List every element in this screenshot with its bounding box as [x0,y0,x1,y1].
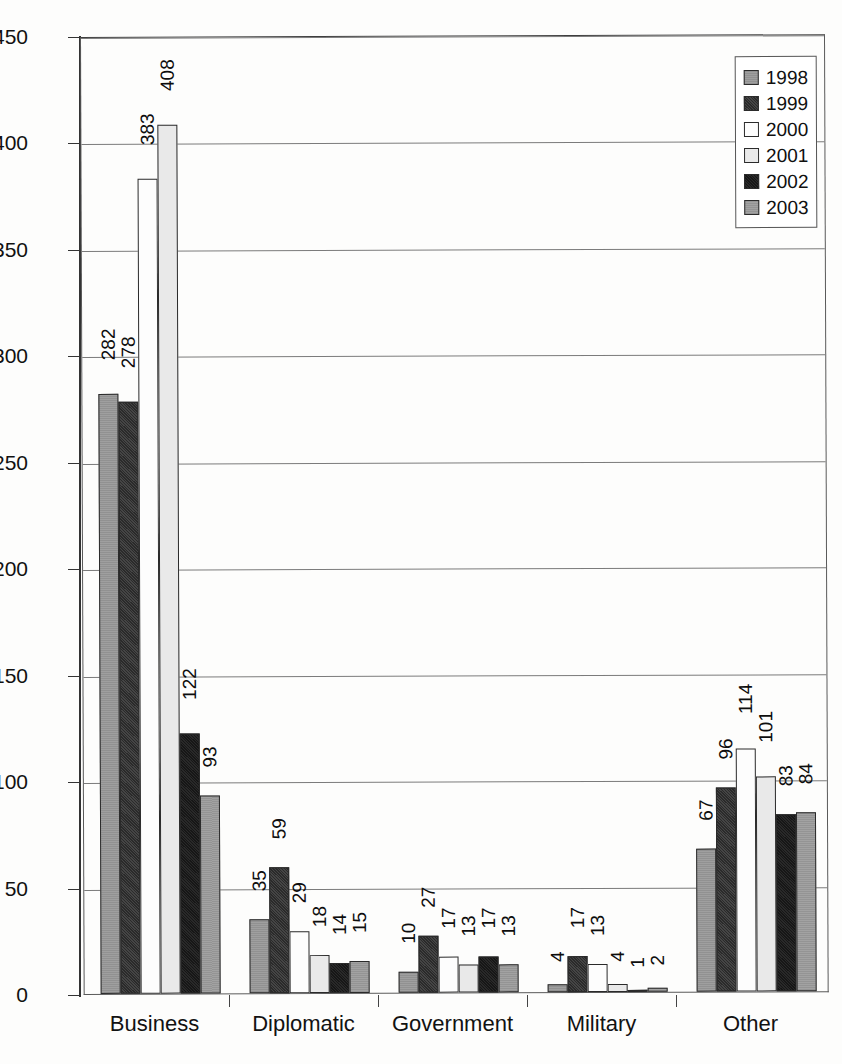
bar-value-label: 282 [99,328,118,360]
bar[interactable]: 278 [118,402,140,994]
legend-label: 2003 [766,197,808,216]
legend-item[interactable]: 2001 [744,142,809,168]
y-tick-label: 0 [0,984,28,1005]
bar-groups: 2822783834081229335592918141510271713171… [81,35,824,38]
bar-value-label: 10 [399,922,418,943]
y-tick-label: 100 [0,771,28,792]
bar[interactable]: 93 [200,795,221,993]
y-tick-mark [68,676,81,677]
bar-value-label: 13 [459,916,478,937]
bar[interactable]: 18 [310,955,330,993]
bar-value-label: 13 [588,915,607,936]
bar-value-label: 15 [350,912,369,933]
bar[interactable]: 13 [588,964,608,992]
bar-value-label: 18 [310,906,329,927]
bar-group: 355929181415 [246,37,370,993]
y-tick-mark [68,782,81,783]
bar-value-label: 17 [439,907,458,928]
x-axis-label: Diplomatic [229,1012,378,1036]
legend-item[interactable]: 2000 [744,116,809,142]
legend-swatch-icon [744,70,759,85]
bar-value-label: 17 [568,907,587,928]
bar-value-label: 35 [250,870,269,891]
bar-value-label: 13 [499,916,518,937]
bar-value-label: 122 [180,668,199,700]
bar[interactable]: 17 [439,956,459,992]
plot-area: 2822783834081229335592918141510271713171… [80,34,829,995]
y-tick-mark [68,250,81,251]
bar[interactable]: 122 [180,734,201,994]
y-tick-mark [68,143,81,144]
bar[interactable]: 282 [98,394,120,994]
bar[interactable]: 67 [696,849,717,992]
bar-value-label: 408 [158,60,177,92]
bar[interactable]: 84 [796,812,817,991]
bar-value-label: 2 [648,955,667,966]
bar-value-label: 17 [479,907,498,928]
y-tick-label: 450 [0,26,28,47]
legend-item[interactable]: 2003 [744,194,809,220]
legend-item[interactable]: 2002 [744,168,809,194]
bar[interactable]: 96 [716,787,737,991]
bar-slot: 13 [495,36,519,992]
bar[interactable]: 17 [568,956,588,992]
bar-value-label: 14 [330,914,349,935]
bar-value-label: 383 [138,113,157,145]
bar[interactable]: 83 [776,815,797,992]
bar[interactable]: 4 [548,984,568,993]
bar-value-label: 114 [736,684,755,714]
bar[interactable]: 15 [350,961,370,993]
legend-swatch-icon [744,96,759,111]
bar-group: 28227838340812293 [97,37,221,993]
bar[interactable]: 10 [399,971,419,992]
y-tick-mark [68,463,81,464]
bar-value-label: 4 [548,951,567,962]
bar-value-label: 29 [290,882,309,903]
bar-value-label: 59 [270,819,289,840]
x-tick-mark [527,995,528,1007]
bar[interactable]: 35 [249,919,269,994]
x-axis-label: Military [527,1012,676,1036]
bar-chart: 050100150200250300350400450 282278383408… [0,0,842,1064]
bar[interactable]: 13 [499,965,519,993]
bar[interactable]: 2 [648,988,668,992]
y-tick-label: 400 [0,132,28,153]
bar[interactable]: 13 [459,965,479,993]
bar[interactable]: 101 [756,776,777,991]
legend-item[interactable]: 1999 [744,90,809,116]
bar-group: 102717131713 [395,36,519,992]
x-tick-mark [378,995,379,1007]
bar[interactable]: 1 [628,990,648,992]
y-tick-mark [68,356,81,357]
bar-group: 41713412 [544,36,668,992]
bar[interactable]: 4 [608,983,628,992]
bar-value-label: 1 [628,957,647,968]
bar-value-label: 278 [119,337,138,369]
legend[interactable]: 199819992000200120022003 [735,56,818,228]
legend-swatch-icon [744,122,759,137]
bar[interactable]: 27 [418,935,438,993]
x-tick-mark [229,995,230,1007]
bar[interactable]: 59 [269,868,289,994]
bar-value-label: 4 [608,951,627,962]
bar[interactable]: 114 [736,749,757,992]
bar-slot: 15 [346,37,370,993]
legend-swatch-icon [744,148,759,163]
legend-label: 2002 [766,171,808,190]
bar[interactable]: 14 [330,963,350,993]
bar-value-label: 83 [776,766,795,787]
legend-swatch-icon [744,174,759,189]
bar[interactable]: 29 [289,931,309,993]
legend-label: 1998 [766,67,808,86]
bar-value-label: 67 [696,800,715,821]
legend-swatch-icon [744,200,759,215]
bar-value-label: 101 [756,711,775,743]
y-tick-mark [68,569,81,570]
bar[interactable]: 17 [479,956,499,992]
legend-label: 2001 [766,145,808,164]
y-tick-label: 150 [0,665,28,686]
legend-item[interactable]: 1998 [744,64,809,90]
y-tick-label: 200 [0,558,28,579]
bar-slot: 93 [197,37,221,993]
y-tick-label: 50 [0,878,28,899]
